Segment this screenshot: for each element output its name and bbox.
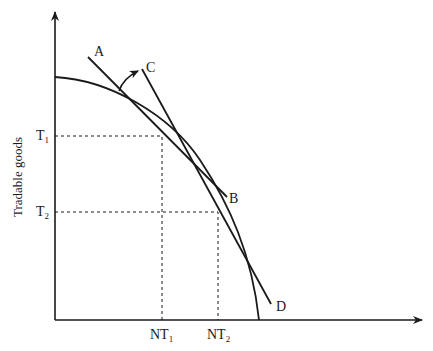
point-label-d: D (276, 299, 286, 314)
tangent-line-cd (142, 69, 271, 304)
point-label-b: B (229, 191, 238, 206)
t2-guide (55, 212, 218, 320)
y-tick-t2: T2 (36, 204, 49, 221)
y-axis-label: Tradable goods (10, 137, 25, 217)
ppf-diagram: A C B D T1 T2 NT1 NT2 Tradable goods (0, 0, 433, 351)
point-label-c: C (146, 60, 155, 75)
t1-guide (55, 136, 162, 320)
point-label-a: A (94, 44, 105, 59)
x-tick-nt1: NT1 (150, 327, 173, 344)
x-tick-nt2: NT2 (207, 327, 230, 344)
rotation-arrow-icon (119, 71, 138, 91)
tangent-line-ab (88, 57, 227, 197)
y-tick-t1: T1 (36, 128, 49, 145)
